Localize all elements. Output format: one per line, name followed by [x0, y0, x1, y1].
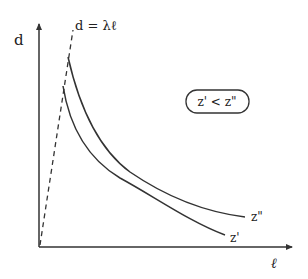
diagram-canvas: d d = λℓ z' < z" z" z' ℓ: [0, 0, 308, 279]
x-axis-label: ℓ: [271, 255, 277, 271]
condition-label: z' < z": [197, 95, 236, 109]
y-axis-label: d: [14, 31, 24, 49]
line-label: d = λℓ: [75, 18, 117, 33]
dashed-line-d-lambda-l: [40, 30, 73, 245]
curve-z-double-prime: [68, 57, 245, 217]
curve-label-z-double-prime: z": [251, 210, 263, 224]
curve-label-z-prime: z': [230, 231, 240, 245]
